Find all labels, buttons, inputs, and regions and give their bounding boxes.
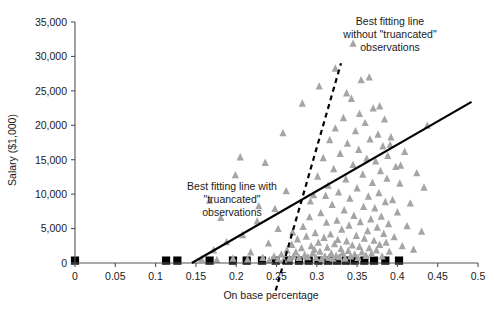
x-tick-label: 0.4 — [390, 270, 405, 282]
x-tick-label: 0.25 — [266, 270, 287, 282]
y-tick-label: 25,000 — [35, 85, 67, 97]
y-tick-label: 20,000 — [35, 119, 67, 131]
y-tick-label: 35,000 — [35, 16, 67, 28]
x-tick-label: 0.3 — [309, 270, 324, 282]
y-tick-label: 5,000 — [41, 222, 67, 234]
y-axis-title: Salary ($1,000) — [6, 114, 18, 186]
x-axis-title: On base percentage — [223, 289, 318, 301]
annotation-without-truncated-line3: observations — [360, 41, 420, 53]
x-tick-label: 0.1 — [148, 270, 163, 282]
y-tick-label: 30,000 — [35, 50, 67, 62]
x-tick-label: 0.5 — [471, 270, 486, 282]
annotation-with-truncated-line3: observations — [202, 206, 262, 218]
x-tick-label: 0.35 — [347, 270, 368, 282]
y-tick-label: 10,000 — [35, 188, 67, 200]
x-tick-label: 0 — [72, 270, 78, 282]
x-tick-label: 0.45 — [427, 270, 448, 282]
y-tick-label: 0 — [61, 257, 67, 269]
annotation-with-truncated-line2: "truancated" — [203, 193, 260, 205]
annotation-without-truncated-line2: without "truancated" — [342, 28, 437, 40]
annotation-without-truncated-line1: Best fitting line — [356, 15, 424, 27]
x-tick-label: 0.15 — [186, 270, 207, 282]
chart-svg: 05,00010,00015,00020,00025,00030,00035,0… — [0, 0, 494, 320]
y-tick-label: 15,000 — [35, 154, 67, 166]
x-tick-label: 0.05 — [105, 270, 126, 282]
scatter-chart-figure: 05,00010,00015,00020,00025,00030,00035,0… — [0, 0, 494, 320]
x-tick-label: 0.2 — [229, 270, 244, 282]
annotation-with-truncated-line1: Best fitting line with — [187, 180, 277, 192]
